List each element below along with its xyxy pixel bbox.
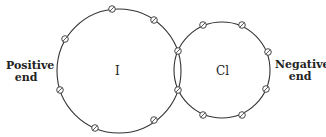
electron-icon [57,87,64,94]
electron-icon [151,17,158,24]
electron-icon [151,117,158,124]
electron-icon [200,22,207,29]
electron-icon [263,86,270,93]
electron-icon [239,112,246,119]
electron-icon [92,125,99,132]
negative-label-line2: end [275,71,325,83]
negative-end-label: Negative end [275,59,325,83]
iodine-symbol: I [115,64,120,78]
electron-icon [239,22,246,29]
electrons-group [57,6,272,132]
electron-icon [265,49,272,56]
electron-icon [175,87,182,94]
positive-end-label: Positive end [6,60,46,84]
electron-icon [109,6,116,13]
iodine-chloride-diagram: Positive end I Cl Negative end [0,0,326,137]
chlorine-symbol: Cl [216,64,229,78]
electron-icon [175,48,182,55]
positive-label-line2: end [6,72,46,84]
electron-icon [62,36,69,43]
electron-icon [200,112,207,119]
